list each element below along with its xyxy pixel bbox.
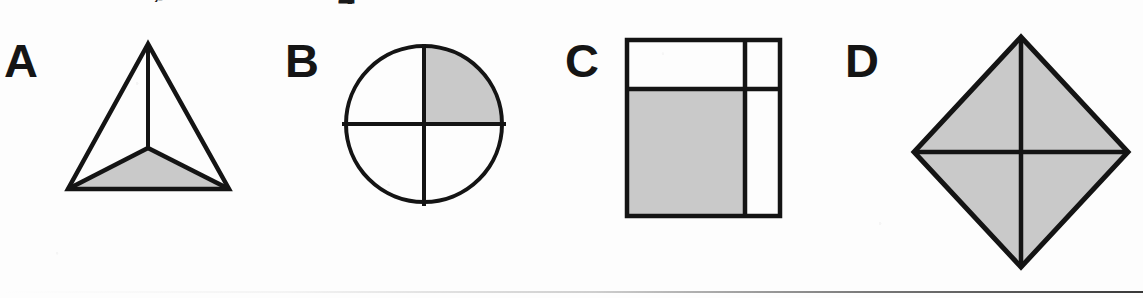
- figure-a-triangle: [55, 30, 250, 205]
- figure-label-a: A: [4, 37, 37, 84]
- figure-page: g 4 A B C: [0, 0, 1143, 298]
- clipped-header-fragment-left: g: [152, 0, 182, 2]
- figure-c-shaded-region: [627, 89, 745, 216]
- figure-a-shaded-region: [68, 148, 229, 189]
- figure-label-d: D: [845, 37, 878, 84]
- figure-b-circle: [336, 36, 521, 216]
- figure-c-square: [620, 32, 795, 227]
- figure-label-c: C: [565, 37, 598, 84]
- figure-label-b: B: [285, 37, 318, 84]
- figure-d-diamond: [905, 28, 1137, 276]
- bottom-rule: [0, 291, 1143, 293]
- clipped-header-fragment-right: 4: [338, 0, 368, 4]
